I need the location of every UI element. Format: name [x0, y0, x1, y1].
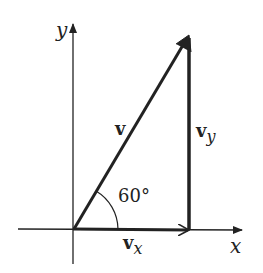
y-axis-label: y: [56, 20, 67, 40]
v-label: v: [115, 120, 125, 138]
vx-label-main: v: [123, 232, 133, 253]
vx-label: vx: [123, 234, 143, 252]
vy-label-sub: y: [206, 127, 215, 146]
vx-vector: [73, 229, 188, 230]
v-arrowhead: [176, 35, 191, 52]
vy-label: vy: [196, 122, 216, 140]
vector-components-diagram: y x v 60° vx vy: [0, 0, 263, 273]
vx-label-sub: x: [133, 239, 142, 258]
x-axis-label: x: [230, 236, 241, 256]
angle-arc: [96, 191, 118, 229]
vy-label-main: v: [196, 120, 206, 141]
angle-label: 60°: [118, 187, 150, 205]
